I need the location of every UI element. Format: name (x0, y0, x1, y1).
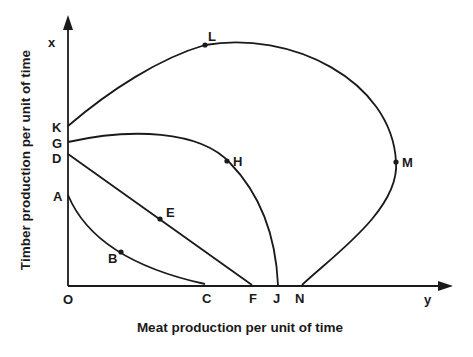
label-h: H (233, 154, 242, 169)
x-axis-arrow-icon (438, 281, 453, 291)
label-g: G (52, 136, 62, 151)
label-e: E (166, 205, 175, 220)
x-axis-title: Meat production per unit of time (137, 320, 344, 335)
label-n: N (295, 291, 304, 306)
curve-abc (68, 195, 205, 284)
label-c: C (202, 291, 212, 306)
ppc-diagram: x y O K G D A C F J N L M H E B Timber p… (0, 0, 473, 357)
label-l: L (208, 29, 216, 44)
y-axis-title: Timber production per unit of time (18, 49, 33, 270)
label-m: M (402, 155, 413, 170)
label-d: D (52, 151, 61, 166)
point-e-dot (157, 216, 162, 221)
point-m-dot (393, 159, 398, 164)
label-a: A (53, 189, 63, 204)
origin-label: O (63, 292, 73, 307)
point-b-dot (118, 249, 123, 254)
y-axis-arrow-icon (63, 15, 73, 30)
label-j: J (273, 291, 280, 306)
label-k: K (52, 120, 62, 135)
point-l-dot (202, 42, 207, 47)
label-b: B (108, 251, 117, 266)
x-axis-symbol: y (424, 292, 432, 307)
y-axis-symbol: x (48, 35, 56, 50)
point-h-dot (224, 158, 229, 163)
label-f: F (249, 291, 257, 306)
